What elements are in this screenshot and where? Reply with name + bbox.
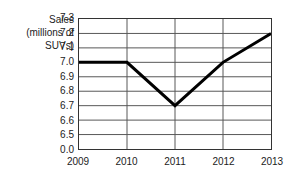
x-axis-tick-label: 2012: [202, 156, 246, 168]
plot-svg: [79, 19, 271, 149]
y-axis-tick-label: 7.2: [48, 28, 74, 38]
y-axis-tick-label: 6.6: [48, 116, 74, 126]
y-axis-tick-label: 0.0: [48, 145, 74, 155]
y-axis-tick-label: 7.0: [48, 57, 74, 67]
vertical-gridlines: [127, 19, 223, 149]
plot-area: [78, 18, 272, 150]
y-axis-tick-label: 7.3: [48, 13, 74, 23]
x-axis-tick-label: 2009: [56, 156, 100, 168]
x-axis-tick-label: 2010: [105, 156, 149, 168]
y-axis-tick-label: 6.9: [48, 72, 74, 82]
y-axis-tick-label: 7.1: [48, 42, 74, 52]
suv-sales-line-chart: Sales (millions of SUVs) 7.37.27.17.06.9…: [0, 0, 298, 191]
x-axis-tick-labels: 20092010201120122013: [0, 156, 298, 172]
x-axis-tick-label: 2011: [153, 156, 197, 168]
x-axis-tick-label: 2013: [250, 156, 294, 168]
y-axis-tick-label: 6.8: [48, 86, 74, 96]
y-axis-tick-label: 6.7: [48, 101, 74, 111]
y-axis-tick-label: 6.5: [48, 130, 74, 140]
